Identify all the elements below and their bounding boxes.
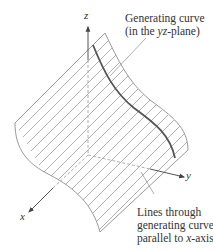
- hidden-axes: [53, 60, 150, 188]
- text-fragment: (in the: [125, 25, 158, 37]
- annotation-line: parallel to x-axis: [137, 232, 213, 245]
- x-axis: [29, 188, 53, 212]
- generating-curve: [93, 45, 175, 158]
- axes: [29, 27, 184, 212]
- variable: yz: [158, 25, 168, 37]
- z-axis-label: z: [84, 9, 88, 21]
- annotation-line: Generating curve: [125, 12, 205, 25]
- generating-curve-leader: [110, 38, 146, 76]
- text-fragment: -axis: [191, 232, 213, 244]
- x-axis-label: x: [20, 210, 25, 222]
- rulings-annotation: Lines through generating curve parallel …: [137, 206, 213, 245]
- text-fragment: parallel to: [137, 232, 186, 244]
- annotation-line: generating curve: [137, 219, 213, 232]
- annotation-line: Lines through: [137, 206, 213, 219]
- annotation-line: (in the yz-plane): [125, 25, 205, 38]
- y-axis-label: y: [186, 169, 191, 181]
- text-fragment: -plane): [167, 25, 200, 37]
- generating-curve-annotation: Generating curve (in the yz-plane): [125, 12, 205, 38]
